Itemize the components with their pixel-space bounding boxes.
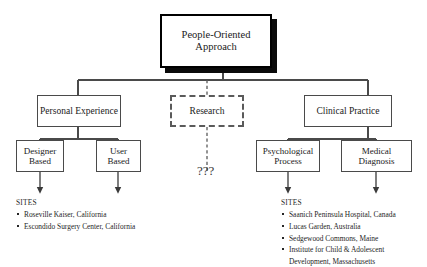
site-name: Lucas Garden, Australia xyxy=(289,222,361,231)
node-label: Clinical Practice xyxy=(314,106,381,117)
node-people-oriented-approach[interactable]: People-Oriented Approach xyxy=(160,14,272,68)
sites-title: SITES xyxy=(16,197,216,209)
node-label: Research xyxy=(188,106,227,117)
node-clinical-practice[interactable]: Clinical Practice xyxy=(304,95,392,127)
sites-items: Roseville Kaiser, California Escondido S… xyxy=(16,209,216,232)
site-name: Roseville Kaiser, California xyxy=(24,210,106,219)
node-label: Personal Experience xyxy=(38,106,120,117)
list-item: Roseville Kaiser, California xyxy=(16,209,216,221)
node-user-based[interactable]: User Based xyxy=(96,140,141,172)
sites-items: Saanich Peninsula Hospital, Canada Lucas… xyxy=(281,209,427,267)
site-name: Institute for Child & Adolescent Develop… xyxy=(289,245,384,266)
site-name: Escondido Surgery Center, California xyxy=(24,222,135,231)
diagram-canvas: People-Oriented Approach Personal Experi… xyxy=(0,0,427,267)
sites-list-left: SITES Roseville Kaiser, California Escon… xyxy=(16,197,216,233)
sites-list-right: SITES Saanich Peninsula Hospital, Canada… xyxy=(281,197,427,267)
node-label: Designer Based xyxy=(17,146,63,166)
node-personal-experience[interactable]: Personal Experience xyxy=(37,95,121,127)
node-designer-based[interactable]: Designer Based xyxy=(16,140,64,172)
node-label: People-Oriented Approach xyxy=(162,29,270,53)
site-name: Sedgewood Commons, Maine xyxy=(289,234,378,243)
list-item: Institute for Child & Adolescent Develop… xyxy=(281,244,427,267)
node-label: Medical Diagnosis xyxy=(342,146,411,166)
site-name: Saanich Peninsula Hospital, Canada xyxy=(289,210,396,219)
list-item: Lucas Garden, Australia xyxy=(281,221,427,233)
sites-title: SITES xyxy=(281,197,427,209)
node-medical-diagnosis[interactable]: Medical Diagnosis xyxy=(341,140,412,172)
node-label: Psychological Process xyxy=(257,146,319,166)
list-item: Saanich Peninsula Hospital, Canada xyxy=(281,209,427,221)
unknown-marker: ??? xyxy=(197,163,214,179)
list-item: Escondido Surgery Center, California xyxy=(16,221,216,233)
node-research[interactable]: Research xyxy=(170,95,244,127)
list-item: Sedgewood Commons, Maine xyxy=(281,233,427,245)
node-psychological-process[interactable]: Psychological Process xyxy=(256,140,320,172)
node-label: User Based xyxy=(97,146,140,166)
